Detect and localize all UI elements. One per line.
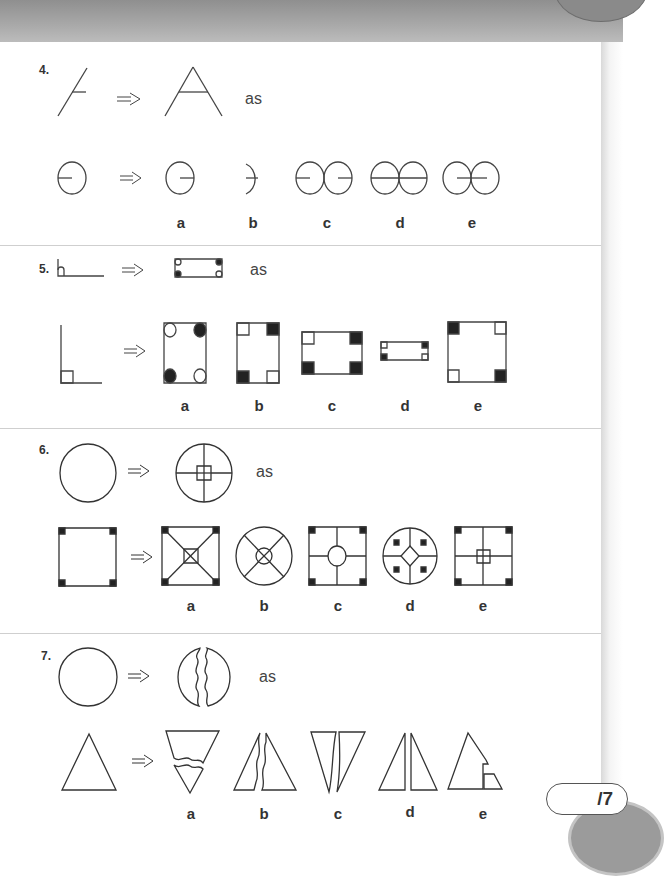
option-label-d[interactable]: d bbox=[400, 803, 420, 820]
q7-option-b-figure bbox=[234, 733, 296, 790]
option-label-b[interactable]: b bbox=[254, 805, 274, 822]
q7-option-d-figure bbox=[379, 733, 437, 790]
q7-option-e-figure bbox=[448, 733, 502, 789]
q7-example-split-circle bbox=[178, 648, 230, 706]
option-label-a[interactable]: a bbox=[181, 805, 201, 822]
arrow-icon bbox=[128, 670, 149, 682]
q7-question-triangle bbox=[62, 734, 116, 790]
option-label-e[interactable]: e bbox=[473, 805, 493, 822]
q7-option-c-figure bbox=[260, 732, 365, 792]
arrow-icon bbox=[132, 755, 153, 767]
score-label: /7 bbox=[597, 788, 613, 810]
option-label-c[interactable]: c bbox=[328, 805, 348, 822]
q7-option-a-figure bbox=[166, 731, 219, 793]
as-connector: as bbox=[259, 668, 276, 686]
score-box: /7 bbox=[546, 783, 628, 815]
q7-example-circle bbox=[59, 648, 117, 706]
